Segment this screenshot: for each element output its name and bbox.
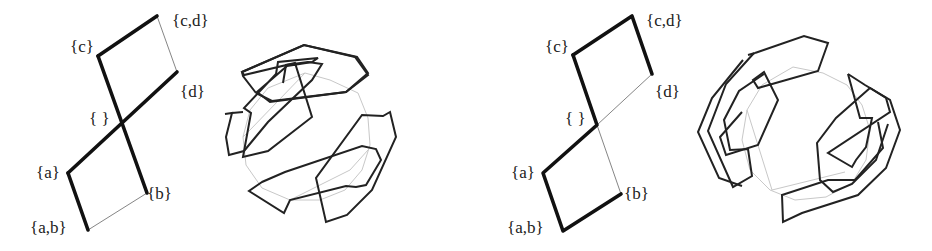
right-lattice: {c,d} {c} {d} { } {a} {b} {a,b} — [507, 11, 683, 237]
label-cd: {c,d} — [646, 11, 683, 30]
label-c: {c} — [70, 37, 94, 56]
ghost-chord-1 — [243, 73, 305, 137]
label-a: {a} — [511, 163, 535, 182]
knot-upper-tab — [232, 112, 243, 113]
edge-c-empty-a-ab-b — [543, 55, 621, 231]
knot-join — [748, 53, 755, 55]
figure-canvas: {c,d} {c} {d} { } {a} {b} {a,b} {c,d} {c… — [0, 0, 932, 251]
label-b: {b} — [624, 184, 649, 203]
label-d: {d} — [655, 82, 680, 101]
edge-a-d — [68, 72, 177, 173]
label-cd: {c,d} — [172, 11, 209, 30]
edge-a-ab — [68, 173, 88, 230]
knot-lower-right — [316, 112, 396, 222]
label-c: {c} — [545, 37, 569, 56]
knot-lower-left — [249, 146, 381, 213]
left-lattice: {c,d} {c} {d} { } {a} {b} {a,b} — [30, 11, 209, 237]
label-empty: { } — [565, 109, 586, 128]
edge-empty-d — [597, 74, 652, 125]
label-d: {d} — [180, 82, 205, 101]
left-knot-diagram — [225, 45, 396, 222]
label-b: {b} — [147, 184, 172, 203]
edge-empty-b — [597, 125, 621, 194]
label-ab: {a,b} — [30, 218, 67, 237]
edge-c-cd — [98, 16, 157, 56]
label-a: {a} — [36, 163, 60, 182]
label-ab: {a,b} — [507, 218, 544, 237]
edge-c-cd-d — [573, 16, 652, 74]
knot-upper-outer — [698, 60, 743, 186]
right-knot-diagram — [698, 36, 900, 222]
edge-ab-b — [88, 193, 147, 230]
label-empty: { } — [89, 109, 110, 128]
